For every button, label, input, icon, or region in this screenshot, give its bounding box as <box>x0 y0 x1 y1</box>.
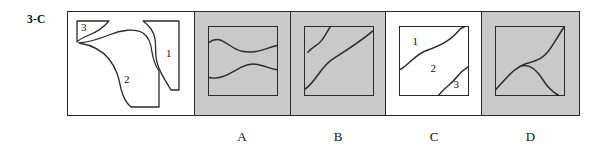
option-b-square <box>304 26 374 96</box>
option-d-curve-falling <box>521 65 558 95</box>
option-d-square <box>495 26 565 96</box>
option-captions: A B C D <box>67 118 580 148</box>
caption-spacer <box>67 118 194 148</box>
option-d-svg <box>496 27 564 95</box>
option-c-number-1: 1 <box>412 36 418 47</box>
torn-paper-figure: 1 2 3 <box>71 15 192 114</box>
option-d-curve-rising <box>496 27 564 89</box>
option-a-curve-upper <box>209 39 277 52</box>
option-b-curve-hook <box>307 27 329 52</box>
item-strip: 1 2 3 <box>67 11 580 116</box>
option-b-curve-main <box>305 31 373 89</box>
option-a-curve-lower <box>209 64 277 78</box>
torn-paper-svg <box>71 15 192 114</box>
option-panel-c[interactable]: 1 2 3 <box>386 12 482 115</box>
problem-piece-number-1: 1 <box>166 48 172 59</box>
piece-2-path <box>79 30 159 107</box>
option-c-square: 1 2 3 <box>399 26 469 96</box>
option-panel-b[interactable] <box>291 12 387 115</box>
option-a-square <box>208 26 278 96</box>
option-c-number-2: 2 <box>430 63 436 74</box>
option-panel-a[interactable] <box>195 12 291 115</box>
problem-piece-number-2: 2 <box>124 74 130 85</box>
option-caption-a[interactable]: A <box>194 118 290 148</box>
test-item-root: 3-C 1 2 3 <box>0 0 604 156</box>
option-caption-b[interactable]: B <box>290 118 386 148</box>
option-b-svg <box>305 27 373 95</box>
option-panel-d[interactable] <box>482 12 579 115</box>
option-c-number-3: 3 <box>453 79 459 90</box>
problem-panel: 1 2 3 <box>68 12 195 115</box>
option-caption-c[interactable]: C <box>386 118 482 148</box>
item-label: 3-C <box>27 13 46 25</box>
option-a-svg <box>209 27 277 95</box>
option-caption-d[interactable]: D <box>482 118 579 148</box>
problem-piece-number-3: 3 <box>81 22 87 33</box>
